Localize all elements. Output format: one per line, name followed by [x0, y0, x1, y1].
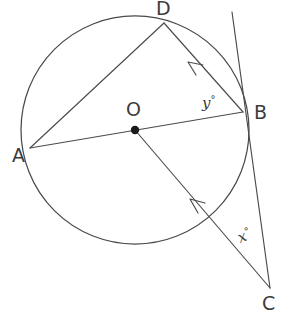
- angle-label-y: y°: [201, 94, 215, 112]
- vertex-label-c: C: [262, 292, 275, 313]
- geometry-diagram: A B C D O y° x°: [0, 0, 292, 313]
- angle-label-x: x°: [235, 225, 254, 247]
- angle-y-degree: °: [210, 94, 215, 105]
- tangent-line-at-b: [232, 12, 270, 288]
- center-point-dot: [131, 126, 139, 134]
- line-c-o: [135, 130, 270, 288]
- vertex-label-a: A: [12, 144, 25, 166]
- arrowhead-toward-o: [190, 199, 205, 213]
- vertex-label-o: O: [126, 98, 141, 120]
- svg-text:y°: y°: [201, 94, 215, 112]
- geometry-canvas: A B C D O y° x°: [0, 0, 292, 313]
- svg-text:x°: x°: [235, 225, 254, 247]
- vertex-label-b: B: [254, 101, 267, 123]
- vertex-label-d: D: [156, 0, 171, 19]
